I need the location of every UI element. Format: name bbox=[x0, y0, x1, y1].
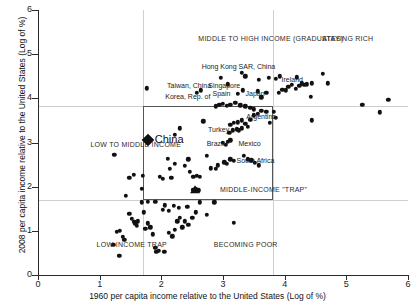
data-point bbox=[112, 153, 116, 157]
data-point bbox=[134, 223, 138, 227]
data-point bbox=[266, 76, 270, 80]
data-point bbox=[150, 232, 154, 236]
country-label: Taiwan, China bbox=[167, 82, 211, 89]
data-point bbox=[257, 78, 261, 82]
data-point bbox=[276, 91, 280, 95]
data-point bbox=[284, 88, 288, 92]
x-axis-title: 1960 per capita income relative to the U… bbox=[0, 291, 415, 301]
x-tick-label: 1 bbox=[93, 279, 107, 289]
region-label: BECOMING POOR bbox=[214, 241, 278, 248]
data-point bbox=[162, 249, 166, 253]
data-point bbox=[127, 212, 131, 216]
data-point bbox=[233, 101, 237, 105]
data-point bbox=[123, 193, 127, 197]
region-label: STAYING RICH bbox=[322, 35, 374, 42]
gridline-horizontal-lower bbox=[38, 200, 408, 201]
x-tick-label: 3 bbox=[216, 279, 230, 289]
data-point bbox=[185, 204, 189, 208]
country-label: Hong Kong SAR, China bbox=[202, 63, 276, 70]
x-tick-label: 4 bbox=[278, 279, 292, 289]
data-point bbox=[386, 98, 390, 102]
trap-triangle-marker bbox=[190, 185, 200, 193]
data-point bbox=[171, 203, 175, 207]
region-label: MIDDLE-INCOME "TRAP" bbox=[220, 186, 307, 193]
data-point bbox=[127, 176, 131, 180]
country-label: South Africa bbox=[237, 157, 275, 164]
data-point bbox=[178, 215, 182, 219]
data-point bbox=[131, 173, 135, 177]
data-point bbox=[163, 203, 167, 207]
data-point bbox=[197, 200, 201, 204]
y-tick-mark bbox=[32, 10, 38, 11]
data-point bbox=[148, 225, 152, 229]
data-point bbox=[144, 86, 148, 90]
data-point bbox=[160, 207, 164, 211]
country-label: Spain bbox=[212, 90, 230, 97]
data-point bbox=[264, 91, 268, 95]
country-label: Korea, Rep. of bbox=[165, 93, 210, 100]
data-point bbox=[218, 76, 222, 80]
gridline-vertical-right bbox=[273, 10, 274, 275]
y-axis-line bbox=[38, 10, 39, 276]
data-point bbox=[232, 221, 236, 225]
data-point bbox=[117, 254, 121, 258]
data-point bbox=[377, 110, 381, 114]
region-label: LOW-INCOME TRAP bbox=[97, 241, 167, 248]
y-tick-mark bbox=[32, 143, 38, 144]
country-label: Singapore bbox=[208, 82, 240, 89]
data-point bbox=[310, 81, 314, 85]
x-tick-label: 0 bbox=[31, 279, 45, 289]
data-point bbox=[175, 219, 179, 223]
country-label: Brazil bbox=[207, 140, 225, 147]
data-point bbox=[153, 199, 157, 203]
data-point bbox=[142, 210, 146, 214]
y-tick-mark bbox=[32, 231, 38, 232]
china-label: China bbox=[155, 133, 184, 145]
country-label: Mexico bbox=[238, 140, 260, 147]
x-tick-label: 5 bbox=[339, 279, 353, 289]
data-point bbox=[205, 213, 209, 217]
data-point bbox=[118, 229, 122, 233]
data-point bbox=[305, 82, 309, 86]
data-point bbox=[157, 249, 161, 253]
x-tick-label: 2 bbox=[154, 279, 168, 289]
y-axis-title: 2008 per capita income relative to the U… bbox=[17, 0, 27, 275]
y-tick-mark bbox=[32, 98, 38, 99]
data-point bbox=[146, 199, 150, 203]
y-tick-mark bbox=[32, 187, 38, 188]
data-point bbox=[180, 225, 184, 229]
y-tick-mark bbox=[32, 54, 38, 55]
data-point bbox=[173, 228, 177, 232]
data-point bbox=[326, 81, 330, 85]
data-point bbox=[176, 206, 180, 210]
data-point bbox=[243, 74, 247, 78]
data-point bbox=[143, 226, 147, 230]
data-point bbox=[310, 118, 314, 122]
data-point bbox=[212, 200, 216, 204]
data-point bbox=[308, 94, 312, 98]
data-point bbox=[167, 209, 171, 213]
data-point bbox=[190, 215, 194, 219]
country-label: Argentina bbox=[246, 113, 276, 120]
data-point bbox=[241, 88, 245, 92]
data-point bbox=[236, 92, 240, 96]
country-label: Turkey bbox=[208, 126, 229, 133]
data-point bbox=[186, 223, 190, 227]
data-point bbox=[170, 234, 174, 238]
country-label: Ireland bbox=[282, 76, 303, 83]
x-tick-label: 6 bbox=[401, 279, 415, 289]
country-label: Japan bbox=[246, 90, 265, 97]
data-point bbox=[194, 210, 198, 214]
data-point bbox=[321, 71, 325, 75]
scatter-chart: 01234560123456 MIDDLE TO HIGH INCOME (GR… bbox=[0, 0, 415, 308]
